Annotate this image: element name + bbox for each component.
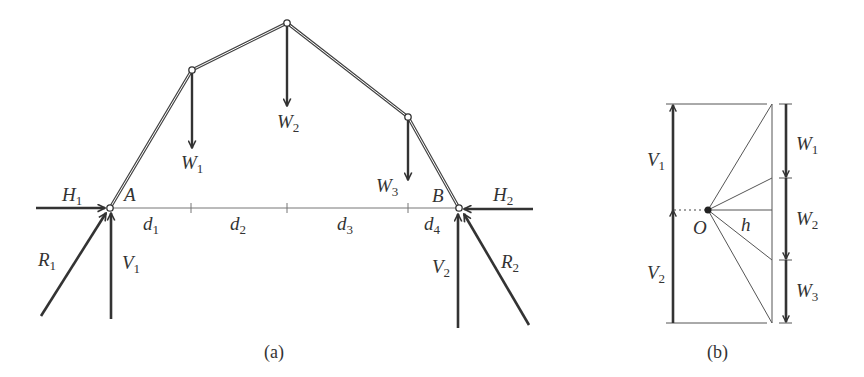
label-d3: d3 bbox=[337, 213, 353, 237]
pole-o bbox=[705, 207, 712, 214]
label-h1: H1 bbox=[61, 184, 82, 208]
node-1 bbox=[189, 67, 195, 73]
label-w3-b: W3 bbox=[796, 280, 818, 304]
label-w1-b: W1 bbox=[796, 133, 818, 157]
label-w2-b: W2 bbox=[796, 208, 818, 232]
node-3 bbox=[405, 114, 411, 120]
support-b bbox=[456, 205, 462, 211]
label-r2: R2 bbox=[500, 251, 519, 275]
pole-rays bbox=[708, 104, 772, 323]
label-w1: W1 bbox=[181, 152, 203, 176]
label-h2: H2 bbox=[492, 184, 513, 208]
node-top bbox=[284, 20, 290, 26]
label-v1: V1 bbox=[122, 252, 140, 276]
reaction-arrow-r2 bbox=[464, 214, 529, 325]
label-v2-b: V2 bbox=[647, 262, 665, 286]
label-o: O bbox=[693, 217, 707, 238]
label-d1: d1 bbox=[143, 213, 159, 237]
support-a bbox=[107, 205, 113, 211]
label-d2: d2 bbox=[230, 213, 246, 237]
caption-b: (b) bbox=[707, 342, 728, 363]
label-v1-b: V1 bbox=[647, 149, 665, 173]
funicular-figure: W1 W2 W3 A B H1 V1 R1 H2 V2 R2 d1 d2 d3 … bbox=[0, 0, 864, 377]
panel-b: V1 V2 O h W1 W2 W3 (b) bbox=[647, 104, 818, 363]
label-r1: R1 bbox=[37, 249, 56, 273]
label-h: h bbox=[741, 214, 751, 235]
caption-a: (a) bbox=[264, 342, 284, 363]
label-w3: W3 bbox=[376, 175, 398, 199]
panel-a: W1 W2 W3 A B H1 V1 R1 H2 V2 R2 d1 d2 d3 … bbox=[36, 20, 533, 363]
label-v2: V2 bbox=[432, 256, 450, 280]
support-label-b: B bbox=[432, 185, 444, 206]
label-d4: d4 bbox=[424, 213, 441, 237]
label-w2: W2 bbox=[277, 111, 299, 135]
support-label-a: A bbox=[122, 184, 136, 205]
